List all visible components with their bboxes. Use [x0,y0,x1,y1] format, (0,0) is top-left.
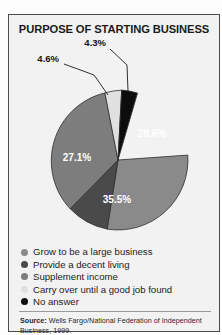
pie-value-label-grow: 28.6% [138,128,166,139]
pie-value-label-supplement: 27.1% [63,152,91,163]
legend-item-label: Grow to be a large business [33,247,152,257]
legend-item-label: Carry over until a good job found [33,285,172,295]
legend-item-provide-a-decent-living[interactable]: Provide a decent living [21,258,213,270]
leader-line-carry-over [64,64,108,95]
chart-title: PURPOSE OF STARTING BUSINESS [9,23,219,35]
source-note: Source: Wells Fargo/National Federation … [20,316,212,335]
pie-callout-label-carry-over: 4.6% [37,53,59,64]
pie-callout-label-no-answer: 4.3% [84,37,106,48]
source-divider [19,311,211,312]
legend-swatch-icon [21,249,28,256]
chart-legend: Grow to be a large business Provide a de… [21,246,213,308]
source-text: Wells Fargo/National Federation of Indep… [20,316,202,335]
legend-item-no-answer[interactable]: No answer [21,296,213,308]
legend-swatch-icon [21,286,28,293]
pie-chart-area: 28.6% 35.5% 27.1% 4.6% 4.3% [9,37,219,239]
pie-chart-svg: 28.6% 35.5% 27.1% 4.6% 4.3% [9,37,219,239]
legend-item-label: Provide a decent living [33,260,130,270]
legend-swatch-icon [21,298,28,305]
chart-figure: PURPOSE OF STARTING BUSINESS 28.6% 35.5%… [8,14,220,332]
legend-item-carry-over-until-a-good-job-found[interactable]: Carry over until a good job found [21,283,213,295]
legend-item-label: No answer [33,297,79,307]
leader-line-no-answer [110,49,128,91]
pie-value-label-living: 35.5% [103,194,131,205]
legend-item-label: Supplement income [33,272,118,282]
legend-swatch-icon [21,273,28,280]
source-prefix: Source: [20,316,47,325]
pie-slice-no-answer[interactable] [118,90,138,160]
legend-item-grow-to-be-a-large-business[interactable]: Grow to be a large business [21,246,213,258]
legend-swatch-icon [21,261,28,268]
legend-item-supplement-income[interactable]: Supplement income [21,271,213,283]
pie-slice-grow-to-be-a-large-business[interactable] [107,155,188,230]
